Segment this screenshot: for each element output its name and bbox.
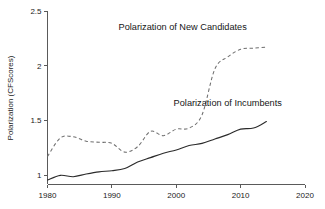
x-tick-label: 2020 (296, 191, 314, 200)
y-axis-title: Polarization (CFScores) (6, 55, 15, 140)
y-tick-label: 2 (37, 62, 42, 71)
x-tick-label: 2000 (167, 191, 185, 200)
chart-figure: 11.522.5 19801990200020102020 Polarizati… (0, 0, 325, 209)
x-tick-group: 19801990200020102020 (39, 185, 315, 201)
x-tick-label: 1980 (39, 191, 57, 200)
y-tick-label: 2.5 (30, 7, 42, 16)
y-tick-group: 11.522.5 (30, 7, 47, 180)
x-axis: 19801990200020102020 (39, 185, 315, 201)
series-annotation-label: Polarization of Incumbents (174, 98, 283, 108)
x-tick-label: 2010 (232, 191, 250, 200)
series-annotation-label: Polarization of New Candidates (119, 22, 248, 32)
line-chart: 11.522.5 19801990200020102020 Polarizati… (0, 0, 325, 209)
y-axis: 11.522.5 (30, 7, 47, 184)
chart-annotations: Polarization of New CandidatesPolarizati… (119, 22, 283, 109)
series-line-incumbents (48, 121, 267, 180)
y-tick-label: 1.5 (30, 116, 42, 125)
x-tick-label: 1990 (103, 191, 121, 200)
y-tick-label: 1 (37, 171, 42, 180)
